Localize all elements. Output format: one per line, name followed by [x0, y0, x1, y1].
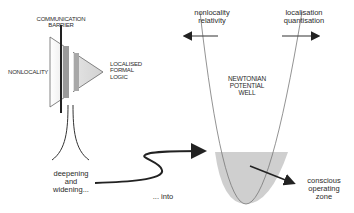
conscious-zone-label: conscious operating zone: [300, 177, 348, 201]
deepening-line3: widening...: [46, 186, 96, 194]
nonlocality-relativity-label: nonlocality relativity: [184, 9, 240, 25]
quantisation-line: quantisation: [276, 17, 332, 25]
localised-formal-logic-label: LOCALISED FORMAL LOGIC: [110, 61, 150, 80]
band-light: [69, 48, 73, 96]
band-mid: [74, 53, 79, 91]
relativity-line: relativity: [184, 17, 240, 25]
zone-line3: zone: [300, 193, 348, 201]
well-line3: WELL: [222, 90, 272, 97]
newtonian-well-label: NEWTONIAN POTENTIAL WELL: [222, 76, 272, 96]
localised-line3: LOGIC: [110, 74, 150, 80]
nonlocality-label: NONLOCALITY: [8, 69, 54, 75]
barrier-label: COMMUNICATION BARRIER: [30, 16, 92, 29]
potential-well: [200, 12, 302, 204]
stem: [52, 105, 89, 160]
deepening-label: deepening and widening...: [46, 170, 96, 194]
localisation-quantisation-label: localisation quantisation: [276, 9, 332, 25]
conscious-zone-fill: [215, 152, 288, 204]
into-label: ... into: [145, 193, 181, 201]
barrier-label-line2: BARRIER: [30, 22, 92, 28]
flow-arrow: [95, 151, 203, 183]
logic-funnel: [50, 25, 103, 113]
band-dark: [63, 46, 69, 98]
